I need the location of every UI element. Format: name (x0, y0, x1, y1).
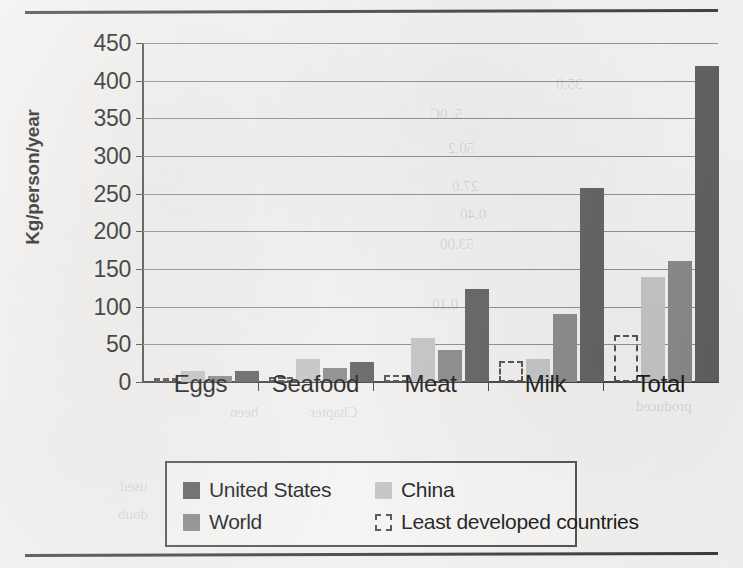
bar (695, 66, 719, 382)
y-tick-mark (136, 118, 143, 119)
bar-group (488, 43, 603, 382)
y-tick-mark (136, 43, 143, 44)
legend-item: China (375, 478, 585, 502)
y-tick-label: 450 (94, 30, 131, 57)
plot-area: 050100150200250300350400450 (143, 43, 718, 382)
x-axis-separator (373, 382, 374, 391)
x-axis-separator (488, 382, 489, 391)
bar (668, 261, 692, 382)
y-tick-label: 0 (119, 369, 132, 396)
legend-item: Least developed countries (375, 510, 585, 534)
y-tick-label: 300 (94, 143, 131, 170)
y-axis-title: Kg/person/year (22, 82, 44, 272)
bar (580, 188, 604, 382)
bar-group (373, 43, 488, 382)
x-axis-label-meat: Meat (404, 370, 456, 398)
chart-legend: United StatesChinaWorldLeast developed c… (165, 461, 577, 547)
bar (641, 277, 665, 382)
legend-swatch-ldc (375, 514, 392, 531)
y-tick-mark (136, 344, 143, 345)
y-tick-mark (136, 156, 143, 157)
y-tick-label: 350 (94, 105, 131, 132)
x-axis-separator (603, 382, 604, 391)
y-tick-mark (136, 307, 143, 308)
legend-swatch-us (183, 482, 200, 499)
legend-label: United States (209, 478, 331, 502)
y-tick-label: 250 (94, 180, 131, 207)
y-tick-label: 400 (94, 67, 131, 94)
x-axis-label-total: Total (636, 370, 685, 398)
bar-chart-figure: Kg/person/year 0501001502002503003504004… (0, 18, 743, 548)
legend-label: China (401, 478, 454, 502)
x-axis-label-eggs: Eggs (174, 370, 228, 398)
x-axis-label-milk: Milk (525, 370, 566, 398)
bar (499, 361, 523, 382)
page-rule-bottom (25, 552, 718, 557)
legend-label: Least developed countries (401, 510, 639, 534)
legend-swatch-world (183, 514, 200, 531)
y-tick-mark (136, 231, 143, 232)
bar (235, 371, 259, 382)
legend-item: United States (183, 478, 375, 502)
bar-group (258, 43, 373, 382)
y-tick-mark (136, 269, 143, 270)
x-axis-separator (258, 382, 259, 391)
y-tick-mark (136, 382, 143, 383)
y-tick-label: 50 (106, 331, 131, 358)
x-axis-label-seafood: Seafood (272, 370, 359, 398)
y-tick-label: 100 (94, 293, 131, 320)
y-tick-label: 200 (94, 218, 131, 245)
legend-label: World (209, 510, 262, 534)
y-tick-mark (136, 81, 143, 82)
bar (614, 335, 638, 382)
page-rule-top (25, 9, 718, 14)
bar-group (603, 43, 718, 382)
legend-swatch-china (375, 482, 392, 499)
bar (465, 289, 489, 382)
bar-group (143, 43, 258, 382)
y-tick-mark (136, 194, 143, 195)
y-tick-label: 150 (94, 256, 131, 283)
legend-item: World (183, 510, 375, 534)
